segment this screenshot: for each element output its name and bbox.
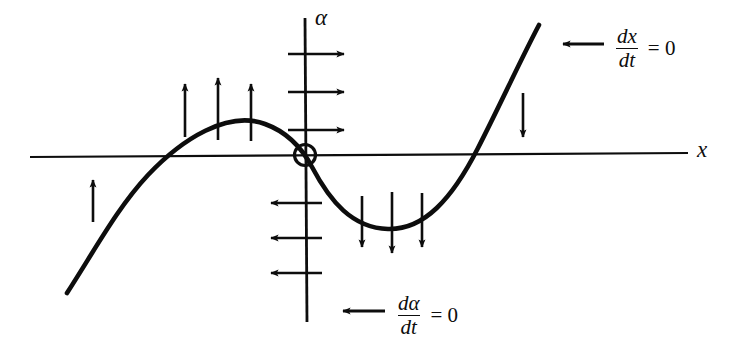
d-alpha-dt-denominator: dt [398,315,420,338]
x-axis-label: x [697,138,707,161]
dx-dt-nullcline-curve [67,25,539,293]
alpha-axis-label: α [315,6,327,29]
alpha-axis-line [305,18,307,322]
dx-dt-denominator: dt [616,48,638,71]
d-alpha-dt-fraction: dα dt [393,293,425,339]
d-alpha-dt-nullcline-label: dα dt = 0 [393,293,458,339]
phase-plane-figure: α x dx dt = 0 dα dt = 0 [0,0,729,353]
d-alpha-dt-numerator: dα [395,293,423,315]
dx-dt-numerator: dx [614,26,640,48]
dx-dt-nullcline-label: dx dt = 0 [612,26,675,72]
dx-dt-equals-zero: = 0 [648,38,676,59]
d-alpha-dt-equals-zero: = 0 [431,305,459,326]
x-axis-line [30,153,688,157]
dx-dt-fraction: dx dt [612,26,642,72]
